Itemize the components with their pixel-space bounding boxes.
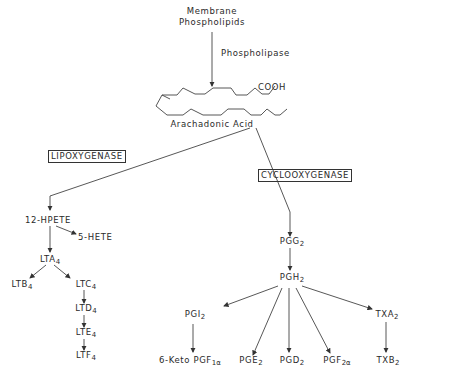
arachidonic-acid-label: Arachadonic Acid <box>170 119 253 129</box>
lta4-node: LTA4 <box>40 254 60 266</box>
ltb4-node: LTB4 <box>12 279 33 291</box>
pgd2-node: PGD2 <box>280 355 305 367</box>
txb2-node: TXB2 <box>376 355 399 367</box>
pge2-node: PGE2 <box>239 355 262 367</box>
phospholipase-label: Phospholipase <box>221 48 290 58</box>
pgg2-node: PGG2 <box>280 236 305 248</box>
pgh2-node: PGH2 <box>280 272 304 284</box>
pgi2-node: PGI2 <box>185 309 206 321</box>
txa2-node: TXA2 <box>375 309 398 321</box>
cooh-group-label: COOH <box>258 82 286 92</box>
ltd4-node: LTD4 <box>75 303 97 315</box>
12-hpete-node: 12-HPETE <box>25 215 71 225</box>
lte4-node: LTE4 <box>76 327 96 339</box>
membrane-phospholipids-label: Membrane Phospholipids <box>179 6 245 28</box>
6-keto-pgf1a-node: 6-Keto PGF1α <box>159 355 221 367</box>
ltf4-node: LTF4 <box>76 350 96 362</box>
pgf2a-node: PGF2α <box>323 355 350 367</box>
cyclooxygenase-enzyme-box: CYCLOOXYGENASE <box>258 169 352 182</box>
5-hete-node: 5-HETE <box>78 232 112 242</box>
ltc4-node: LTC4 <box>76 279 96 291</box>
lipoxygenase-enzyme-box: LIPOXYGENASE <box>48 150 126 163</box>
